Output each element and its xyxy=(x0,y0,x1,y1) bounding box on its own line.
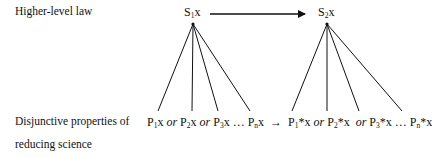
fan-left-edge-pn xyxy=(193,24,250,111)
left-disjunction: P1x or P2x or P3x … Pnx → P1*x or P2*x o… xyxy=(147,115,432,130)
fan-right-edge-pn xyxy=(327,24,402,111)
term-p1x: P1x xyxy=(147,115,163,129)
fan-right-edge-p3 xyxy=(327,24,359,111)
ellipsis: … xyxy=(233,115,245,129)
term-p3x: P3x xyxy=(213,115,229,129)
fan-left-edge-p3 xyxy=(193,24,218,111)
connective: or xyxy=(200,115,211,129)
connective: or xyxy=(356,115,367,129)
fan-left-edge-p2 xyxy=(192,24,193,111)
term-pnx: Pnx xyxy=(248,115,264,129)
term-p2x: P2x xyxy=(180,115,196,129)
term-p2star-x: P2*x xyxy=(327,115,349,129)
fan-left-edge-p1 xyxy=(158,24,193,111)
term-p1star-x: P1*x xyxy=(288,115,310,129)
implies-arrow-icon: → xyxy=(270,115,282,129)
ellipsis: … xyxy=(395,115,407,129)
term-pnstar-x: Pn*x xyxy=(410,115,432,129)
connective: or xyxy=(314,115,325,129)
fan-right-edge-p1 xyxy=(292,24,327,111)
connective: or xyxy=(166,115,177,129)
term-p3star-x: P3*x xyxy=(369,115,391,129)
